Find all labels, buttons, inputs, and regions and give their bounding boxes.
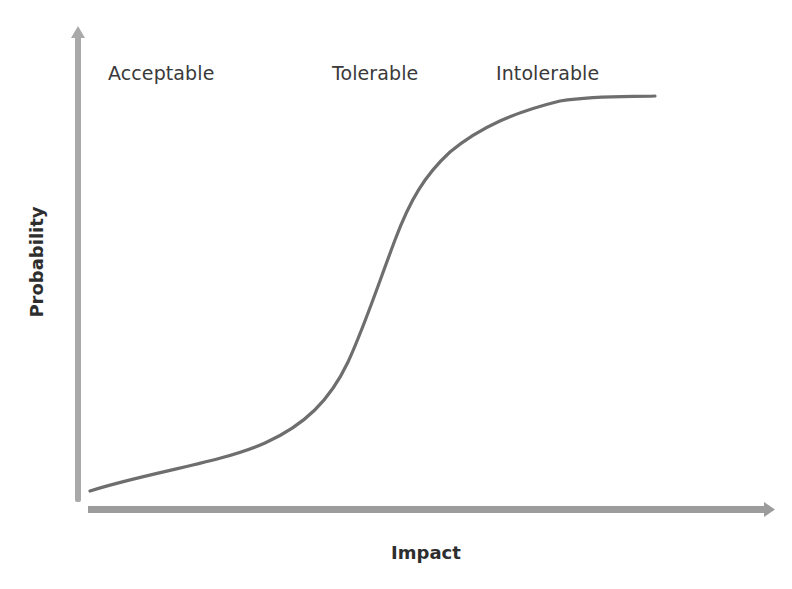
y-axis-title: Probability — [26, 206, 47, 317]
diagram-graphics — [0, 0, 792, 589]
zone-label-acceptable: Acceptable — [108, 62, 214, 84]
risk-diagram: Acceptable Tolerable Intolerable Probabi… — [0, 0, 792, 589]
y-axis-arrow — [71, 26, 85, 502]
zone-label-intolerable: Intolerable — [496, 62, 599, 84]
x-axis-arrow — [88, 502, 775, 517]
zone-label-tolerable: Tolerable — [332, 62, 418, 84]
x-axis-title: Impact — [391, 542, 461, 563]
risk-curve — [90, 96, 655, 491]
